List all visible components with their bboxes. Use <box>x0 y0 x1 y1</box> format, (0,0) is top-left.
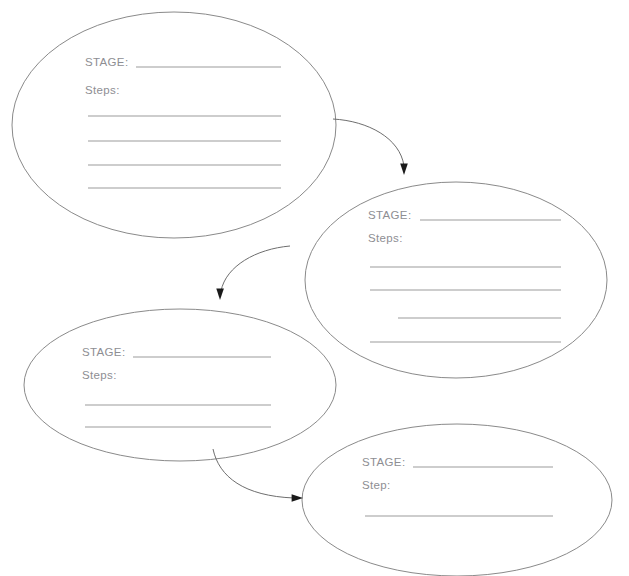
stage-3-steps-label: Steps: <box>82 369 117 381</box>
stage-2-ellipse[interactable] <box>305 182 607 378</box>
arrow-1-to-2 <box>333 119 408 175</box>
stage-4-stage-label: STAGE: <box>362 456 405 468</box>
arrow-2-to-3-path <box>221 246 290 291</box>
stage-1-stage-label: STAGE: <box>85 56 128 68</box>
worksheet-canvas: STAGE: Steps: STAGE: Steps: STAGE: Steps… <box>0 0 629 576</box>
stage-2-stage-label: STAGE: <box>368 209 411 221</box>
arrow-1-to-2-head <box>400 164 408 176</box>
stage-2-steps-label: Steps: <box>368 232 403 244</box>
arrow-2-to-3-head <box>216 289 224 300</box>
stage-1-steps-label: Steps: <box>85 84 120 96</box>
arrow-2-to-3 <box>216 246 290 300</box>
arrow-3-to-4-head <box>292 494 303 502</box>
arrow-1-to-2-path <box>333 119 404 166</box>
diagram-svg: STAGE: Steps: STAGE: Steps: STAGE: Steps… <box>0 0 629 576</box>
stage-4-steps-label: Step: <box>362 479 391 491</box>
stage-1-ellipse[interactable] <box>12 12 336 238</box>
stage-node-3[interactable]: STAGE: Steps: <box>24 309 336 461</box>
stage-3-ellipse[interactable] <box>24 309 336 461</box>
stage-4-ellipse[interactable] <box>302 424 612 576</box>
stage-node-4[interactable]: STAGE: Step: <box>302 424 612 576</box>
stage-3-stage-label: STAGE: <box>82 346 125 358</box>
stage-node-2[interactable]: STAGE: Steps: <box>305 182 607 378</box>
stage-node-1[interactable]: STAGE: Steps: <box>12 12 336 238</box>
